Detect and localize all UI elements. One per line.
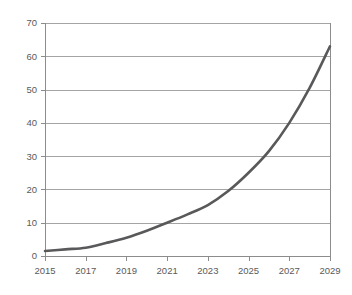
gridlines-group <box>45 24 330 257</box>
ytick-label-60: 60 <box>26 51 37 62</box>
ytick-marks-group <box>41 24 45 257</box>
axes-group <box>45 23 331 257</box>
ytick-label-40: 40 <box>26 117 37 128</box>
xtick-labels-group: 20152017201920212023202520272029 <box>34 265 340 276</box>
xtick-label-2019: 2019 <box>116 265 137 276</box>
series-group <box>45 46 330 251</box>
xtick-label-2025: 2025 <box>238 265 259 276</box>
xtick-label-2023: 2023 <box>197 265 218 276</box>
xtick-label-2029: 2029 <box>319 265 340 276</box>
series-line-series-1 <box>45 46 330 251</box>
xtick-label-2015: 2015 <box>34 265 55 276</box>
xtick-label-2021: 2021 <box>157 265 178 276</box>
ytick-label-30: 30 <box>26 151 37 162</box>
ytick-label-70: 70 <box>26 17 37 28</box>
ytick-label-10: 10 <box>26 217 37 228</box>
chart-canvas: 010203040506070 201520172019202120232025… <box>0 0 352 295</box>
xtick-label-2017: 2017 <box>75 265 96 276</box>
line-chart: 010203040506070 201520172019202120232025… <box>0 0 352 295</box>
ytick-label-20: 20 <box>26 184 37 195</box>
ytick-labels-group: 010203040506070 <box>26 17 37 261</box>
ytick-label-50: 50 <box>26 84 37 95</box>
ytick-label-0: 0 <box>32 250 37 261</box>
xtick-label-2027: 2027 <box>279 265 300 276</box>
